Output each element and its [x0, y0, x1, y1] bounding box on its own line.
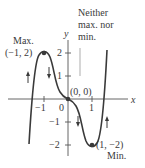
neither-label-line3: min. — [78, 32, 96, 42]
y-tick-label: 2 — [57, 48, 62, 58]
x-tick-label: −1 — [35, 103, 46, 113]
y-tick-label: −2 — [49, 140, 60, 150]
x-tick-label: 1 — [89, 103, 94, 113]
origin-point-marker — [66, 97, 71, 102]
x-axis-label: x — [131, 95, 135, 105]
min-title: Min. — [107, 151, 126, 161]
x-tick-label: 0 — [59, 103, 64, 113]
y-tick-label: 1 — [57, 71, 62, 81]
arrow-up-icon — [26, 71, 30, 83]
max-title: Max. — [13, 36, 34, 46]
arrow-down-icon — [47, 67, 51, 79]
arrow-up-icon — [105, 116, 109, 128]
neither-label-line1: Neither — [78, 8, 108, 18]
y-tick-label: −1 — [49, 117, 60, 127]
min-point-marker — [90, 143, 95, 148]
min-point-label: (1, −2) — [96, 140, 123, 150]
origin-point-label: (0, 0) — [70, 87, 92, 97]
neither-label-line2: max. nor — [78, 20, 114, 30]
max-point-marker — [42, 51, 47, 56]
max-point-label: (−1, 2) — [5, 48, 32, 58]
y-axis-label: y — [64, 29, 68, 39]
